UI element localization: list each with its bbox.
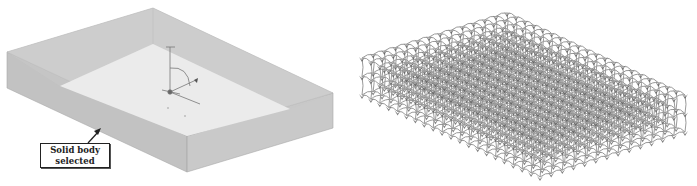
lattice-structure-panel xyxy=(350,0,697,186)
solid-body-panel: Solid body selected xyxy=(0,0,350,186)
lattice-structure-block xyxy=(350,0,697,186)
label-line-2: selected xyxy=(41,156,109,167)
solid-body-selected-label: Solid body selected xyxy=(40,143,110,168)
annotation-arrow-icon xyxy=(88,128,101,143)
label-line-1: Solid body xyxy=(41,145,109,156)
